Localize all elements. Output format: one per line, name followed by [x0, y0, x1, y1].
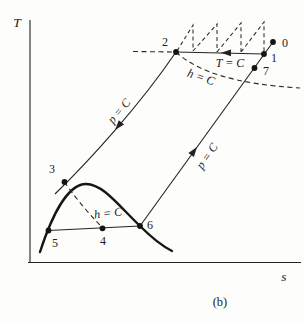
x-axis-label: s [281, 269, 286, 284]
state-point-dot-2 [173, 49, 179, 55]
state-point-label-7: 7 [263, 64, 269, 78]
figure-caption: (b) [213, 295, 228, 309]
isenthalp-top-label: h = C [185, 66, 217, 89]
isotherm-dashed-extension [133, 52, 176, 53]
state-point-label-4: 4 [100, 234, 106, 248]
state-point-dot-0 [270, 39, 276, 45]
isenthalp-bottom-label: h = C [93, 204, 123, 221]
sawtooth-hatching [177, 22, 264, 53]
state-point-label-6: 6 [147, 218, 153, 232]
ts-diagram-canvas: T s 0 1 2 3 4 5 6 7 T = C h = C p = C p … [0, 0, 305, 323]
evaporation-line [49, 226, 141, 231]
state-point-dot-6 [137, 223, 143, 229]
state-point-dot-4 [100, 225, 106, 231]
state-point-dot-1 [261, 51, 267, 57]
state-point-label-5: 5 [52, 236, 58, 250]
state-point-dot-5 [46, 228, 52, 234]
state-point-label-3: 3 [49, 162, 55, 176]
ts-diagram-figure: T s 0 1 2 3 4 5 6 7 T = C h = C p = C p … [0, 0, 305, 323]
state-point-dot-7 [252, 65, 258, 71]
state-point-dot-3 [62, 179, 68, 185]
isobar-right-label: p = C [193, 140, 222, 173]
state-point-label-0: 0 [282, 36, 288, 50]
isotherm-label: T = C [216, 56, 246, 70]
state-point-label-2: 2 [162, 35, 168, 49]
constant-temperature-line [176, 52, 264, 54]
state-point-label-1: 1 [271, 51, 277, 65]
y-axis-label: T [13, 15, 22, 30]
